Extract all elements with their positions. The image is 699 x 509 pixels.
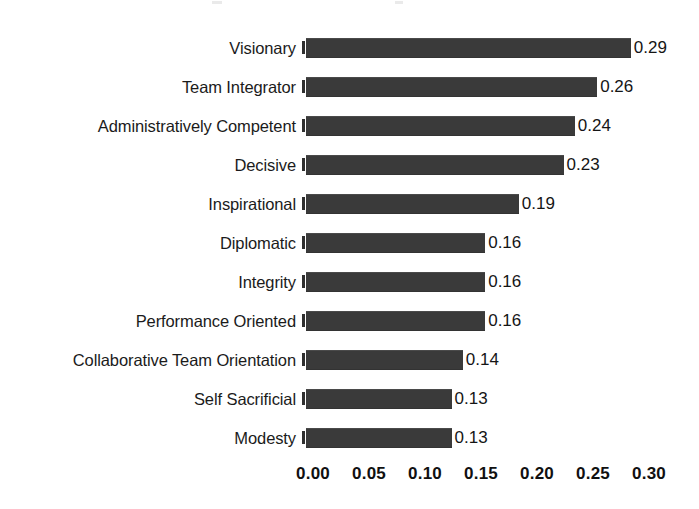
bar-group: 0.16: [306, 311, 521, 331]
bar-value-label: 0.13: [455, 428, 488, 448]
bar-value-label: 0.16: [488, 311, 521, 331]
bar: [306, 311, 485, 331]
category-label: Visionary: [229, 28, 296, 67]
y-axis-tick-mark: [302, 236, 305, 249]
bar: [306, 350, 463, 370]
y-axis-tick-mark: [302, 80, 305, 93]
y-axis-tick-mark: [302, 197, 305, 210]
scan-artifact-left: [212, 1, 222, 4]
category-label: Collaborative Team Orientation: [73, 340, 296, 379]
category-label: Decisive: [234, 145, 296, 184]
bar-value-label: 0.24: [578, 116, 611, 136]
y-axis-tick-mark: [302, 158, 305, 171]
bar-value-label: 0.23: [567, 155, 600, 175]
bar-group: 0.29: [306, 38, 667, 58]
bar-value-label: 0.16: [488, 272, 521, 292]
bar: [306, 233, 485, 253]
bar-row: Performance Oriented0.16: [0, 301, 699, 340]
category-label: Inspirational: [208, 184, 296, 223]
x-tick-label: 0.20: [520, 464, 554, 484]
bar-value-label: 0.29: [634, 38, 667, 58]
bar: [306, 38, 631, 58]
bar-group: 0.14: [306, 350, 499, 370]
bar-group: 0.26: [306, 77, 633, 97]
bar-value-label: 0.19: [522, 194, 555, 214]
y-axis-tick-mark: [302, 119, 305, 132]
bar-chart: Visionary0.29Team Integrator0.26Administ…: [0, 0, 699, 509]
bar-row: Modesty0.13: [0, 418, 699, 457]
category-label: Integrity: [238, 262, 296, 301]
bar-value-label: 0.26: [600, 77, 633, 97]
plot-area: Visionary0.29Team Integrator0.26Administ…: [0, 28, 699, 458]
x-tick-label: 0.15: [464, 464, 498, 484]
category-label: Team Integrator: [182, 67, 296, 106]
y-axis-tick-mark: [302, 314, 305, 327]
bar: [306, 389, 452, 409]
category-label: Self Sacrificial: [194, 379, 296, 418]
category-label: Administratively Competent: [98, 106, 296, 145]
bar: [306, 155, 564, 175]
category-label: Diplomatic: [220, 223, 296, 262]
bar: [306, 77, 597, 97]
bar-row: Team Integrator0.26: [0, 67, 699, 106]
bar-value-label: 0.16: [488, 233, 521, 253]
bar: [306, 194, 519, 214]
x-tick-label: 0.30: [632, 464, 666, 484]
bar-value-label: 0.14: [466, 350, 499, 370]
y-axis-tick-mark: [302, 431, 305, 444]
x-tick-label: 0.05: [352, 464, 386, 484]
y-axis-tick-mark: [302, 275, 305, 288]
bar-value-label: 0.13: [455, 389, 488, 409]
y-axis-tick-mark: [302, 392, 305, 405]
y-axis-tick-mark: [302, 41, 305, 54]
scan-artifact-right: [395, 1, 403, 4]
x-tick-label: 0.25: [576, 464, 610, 484]
bar-row: Self Sacrificial0.13: [0, 379, 699, 418]
bar-group: 0.24: [306, 116, 611, 136]
bar-row: Decisive0.23: [0, 145, 699, 184]
category-label: Modesty: [234, 418, 296, 457]
bar-group: 0.16: [306, 272, 521, 292]
bar-row: Integrity0.16: [0, 262, 699, 301]
bar-group: 0.13: [306, 389, 488, 409]
bar-group: 0.16: [306, 233, 521, 253]
x-tick-label: 0.00: [296, 464, 330, 484]
bar: [306, 428, 452, 448]
bar-row: Collaborative Team Orientation0.14: [0, 340, 699, 379]
bar: [306, 272, 485, 292]
bar-group: 0.19: [306, 194, 555, 214]
x-tick-label: 0.10: [408, 464, 442, 484]
bar: [306, 116, 575, 136]
bar-row: Administratively Competent0.24: [0, 106, 699, 145]
bar-row: Diplomatic0.16: [0, 223, 699, 262]
y-axis-tick-mark: [302, 353, 305, 366]
bar-group: 0.13: [306, 428, 488, 448]
x-axis: 0.000.050.100.150.200.250.30: [0, 464, 699, 494]
category-label: Performance Oriented: [136, 301, 296, 340]
bar-row: Visionary0.29: [0, 28, 699, 67]
bar-group: 0.23: [306, 155, 600, 175]
bar-row: Inspirational0.19: [0, 184, 699, 223]
